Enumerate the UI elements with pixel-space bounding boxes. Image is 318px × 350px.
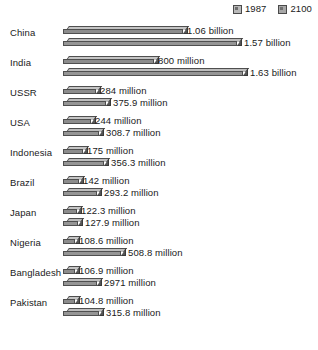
legend-swatch-2100-icon xyxy=(278,5,287,14)
bar-1987[interactable] xyxy=(63,296,75,304)
bar-1987[interactable] xyxy=(63,176,79,184)
bar-1987[interactable] xyxy=(63,56,154,64)
bar-2100[interactable] xyxy=(63,248,121,256)
bar-1987[interactable] xyxy=(63,146,83,154)
country-label: USSR xyxy=(10,87,37,98)
bar-1987[interactable] xyxy=(63,86,96,94)
bar-front-face xyxy=(63,179,79,184)
country-label: Pakistan xyxy=(10,297,47,308)
value-label-1987: 122.3 million xyxy=(81,205,136,216)
row-bars: 142 million293.2 million xyxy=(63,174,318,204)
bar-2100[interactable] xyxy=(63,278,97,286)
bar-1987[interactable] xyxy=(63,116,91,124)
bar-front-face xyxy=(63,281,97,286)
bar-front-face xyxy=(63,269,75,274)
bar-front-face xyxy=(63,311,99,316)
value-label-2100: 2971 million xyxy=(104,277,156,288)
country-label: India xyxy=(10,57,31,68)
legend-label-2100: 2100 xyxy=(290,4,312,14)
bar-front-face xyxy=(63,209,77,214)
chart-row: USA244 million308.7 million xyxy=(0,114,318,144)
value-label-2100: 1.63 billion xyxy=(250,67,297,78)
bar-2100[interactable] xyxy=(63,158,104,166)
bar-front-face xyxy=(63,191,97,196)
value-label-1987: 1.06 billion xyxy=(187,25,234,36)
population-bar-chart: 1987 2100 China1.06 billion1.57 billionI… xyxy=(0,0,318,350)
bar-front-face xyxy=(63,221,78,226)
bar-front-face xyxy=(63,29,183,34)
bar-2100[interactable] xyxy=(63,128,99,136)
value-label-1987: 104.8 million xyxy=(79,295,134,306)
bar-front-face xyxy=(63,59,154,64)
value-label-1987: 106.9 million xyxy=(79,265,134,276)
legend-entry-2100[interactable]: 2100 xyxy=(278,4,312,14)
bar-2100[interactable] xyxy=(63,98,106,106)
chart-row: Indonesia175 million356.3 million xyxy=(0,144,318,174)
bar-front-face xyxy=(63,251,121,256)
chart-row: China1.06 billion1.57 billion xyxy=(0,24,318,54)
country-label: Indonesia xyxy=(10,147,52,158)
value-label-2100: 1.57 billion xyxy=(244,37,291,48)
value-label-2100: 293.2 million xyxy=(104,187,159,198)
country-label: Brazil xyxy=(10,177,34,188)
row-bars: 175 million356.3 million xyxy=(63,144,318,174)
bar-front-face xyxy=(63,89,96,94)
value-label-2100: 308.7 million xyxy=(106,127,161,138)
chart-row: Bangladesh106.9 million2971 million xyxy=(0,264,318,294)
country-label: USA xyxy=(10,117,30,128)
value-label-1987: 284 million xyxy=(100,85,147,96)
bar-1987[interactable] xyxy=(63,26,183,34)
value-label-2100: 356.3 million xyxy=(111,157,166,168)
value-label-1987: 108.6 million xyxy=(79,235,134,246)
bar-front-face xyxy=(63,161,104,166)
row-bars: 122.3 million127.9 million xyxy=(63,204,318,234)
row-bars: 104.8 million315.8 million xyxy=(63,294,318,324)
bar-front-face xyxy=(63,239,75,244)
value-label-1987: 175 million xyxy=(87,145,134,156)
bar-1987[interactable] xyxy=(63,266,75,274)
chart-row: USSR284 million375.9 million xyxy=(0,84,318,114)
row-bars: 284 million375.9 million xyxy=(63,84,318,114)
country-label: Japan xyxy=(10,207,36,218)
row-bars: 800 million1.63 billion xyxy=(63,54,318,84)
chart-row: Pakistan104.8 million315.8 million xyxy=(0,294,318,324)
bar-1987[interactable] xyxy=(63,206,77,214)
chart-row: India800 million1.63 billion xyxy=(0,54,318,84)
bar-2100[interactable] xyxy=(63,308,99,316)
bar-1987[interactable] xyxy=(63,236,75,244)
bar-2100[interactable] xyxy=(63,38,237,46)
bar-front-face xyxy=(63,101,106,106)
value-label-2100: 375.9 million xyxy=(113,97,168,108)
country-label: China xyxy=(10,27,35,38)
value-label-2100: 127.9 million xyxy=(85,217,140,228)
bar-front-face xyxy=(63,131,99,136)
chart-row: Nigeria108.6 million508.8 million xyxy=(0,234,318,264)
chart-rows: China1.06 billion1.57 billionIndia800 mi… xyxy=(0,24,318,324)
chart-row: Japan122.3 million127.9 million xyxy=(0,204,318,234)
row-bars: 106.9 million2971 million xyxy=(63,264,318,294)
bar-front-face xyxy=(63,71,243,76)
bar-front-face xyxy=(63,149,83,154)
value-label-1987: 800 million xyxy=(158,55,205,66)
chart-legend: 1987 2100 xyxy=(233,4,312,14)
row-bars: 1.06 billion1.57 billion xyxy=(63,24,318,54)
bar-2100[interactable] xyxy=(63,188,97,196)
country-label: Bangladesh xyxy=(10,267,61,278)
country-label: Nigeria xyxy=(10,237,41,248)
bar-front-face xyxy=(63,299,75,304)
bar-2100[interactable] xyxy=(63,218,78,226)
value-label-1987: 142 million xyxy=(83,175,130,186)
row-bars: 108.6 million508.8 million xyxy=(63,234,318,264)
row-bars: 244 million308.7 million xyxy=(63,114,318,144)
legend-entry-1987[interactable]: 1987 xyxy=(233,4,267,14)
bar-front-face xyxy=(63,41,237,46)
value-label-2100: 508.8 million xyxy=(128,247,183,258)
bar-front-face xyxy=(63,119,91,124)
value-label-1987: 244 million xyxy=(95,115,142,126)
legend-label-1987: 1987 xyxy=(245,4,267,14)
value-label-2100: 315.8 million xyxy=(106,307,161,318)
chart-row: Brazil142 million293.2 million xyxy=(0,174,318,204)
bar-2100[interactable] xyxy=(63,68,243,76)
legend-swatch-1987-icon xyxy=(233,5,242,14)
